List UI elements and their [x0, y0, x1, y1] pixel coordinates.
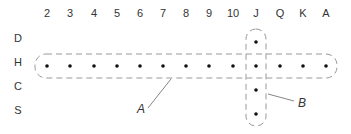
dot: [231, 64, 235, 68]
column-label: A: [322, 7, 330, 19]
row-labels: D H C S: [14, 32, 22, 116]
column-label: 7: [160, 7, 166, 19]
row-label: H: [14, 56, 22, 68]
column-label: J: [253, 7, 259, 19]
dot: [68, 64, 72, 68]
column-label: 9: [206, 7, 212, 19]
row-label: C: [14, 80, 22, 92]
dot: [138, 64, 142, 68]
row-h-dots: [45, 64, 328, 68]
column-label: 4: [91, 7, 97, 19]
dot: [254, 88, 258, 92]
column-label: Q: [276, 7, 285, 19]
dot: [254, 112, 258, 116]
column-label: 6: [137, 7, 143, 19]
callout-a-label: A: [136, 102, 145, 116]
row-label: D: [14, 32, 22, 44]
dot: [45, 64, 49, 68]
row-label: S: [14, 104, 21, 116]
column-label: K: [299, 7, 307, 19]
callout-a-leader: [148, 79, 171, 108]
card-grid-diagram: 2 3 4 5 6 7 8 9 10 J Q K A D H C S: [0, 0, 351, 134]
dot: [254, 40, 258, 44]
column-label: 5: [114, 7, 120, 19]
dot: [161, 64, 165, 68]
column-label: 10: [227, 7, 239, 19]
dot: [92, 64, 96, 68]
column-label: 3: [67, 7, 73, 19]
dot: [254, 64, 258, 68]
callout-b-leader: [268, 94, 294, 101]
dot: [324, 64, 328, 68]
callout-b-label: B: [298, 96, 306, 110]
column-label: 8: [183, 7, 189, 19]
dot: [278, 64, 282, 68]
dot: [207, 64, 211, 68]
dot: [184, 64, 188, 68]
dot: [301, 64, 305, 68]
column-labels: 2 3 4 5 6 7 8 9 10 J Q K A: [44, 7, 330, 19]
dot: [115, 64, 119, 68]
column-label: 2: [44, 7, 50, 19]
